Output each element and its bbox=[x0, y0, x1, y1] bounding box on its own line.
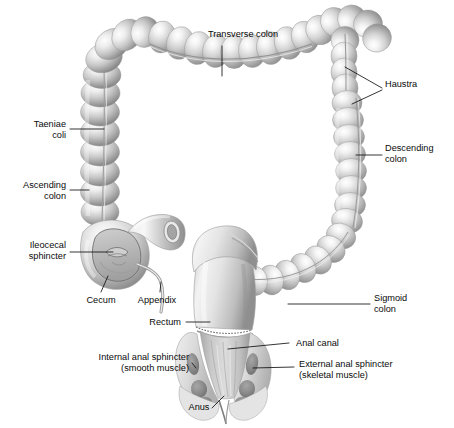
label-ascending-colon[interactable]: Ascending colon bbox=[2, 180, 66, 201]
label-transverse-colon[interactable]: Transverse colon bbox=[183, 29, 303, 40]
label-internal-anal-sphincter[interactable]: Internal anal sphincter (smooth muscle) bbox=[75, 352, 189, 373]
label-sigmoid-colon[interactable]: Sigmoid colon bbox=[374, 293, 452, 314]
ascending-colon bbox=[81, 62, 122, 227]
descending-colon bbox=[330, 91, 367, 236]
label-appendix[interactable]: Appendix bbox=[126, 295, 188, 306]
label-anus[interactable]: Anus bbox=[175, 402, 223, 413]
anatomy-figure: Transverse colon Haustra Taeniae coli De… bbox=[0, 0, 454, 428]
label-rectum[interactable]: Rectum bbox=[131, 317, 181, 328]
label-external-anal-sphincter[interactable]: External anal sphincter (skeletal muscle… bbox=[299, 359, 449, 380]
label-haustra[interactable]: Haustra bbox=[385, 79, 451, 90]
transverse-colon bbox=[146, 18, 323, 69]
rectum bbox=[192, 226, 258, 338]
label-taeniae-coli[interactable]: Taeniae coli bbox=[6, 119, 66, 140]
label-cecum[interactable]: Cecum bbox=[73, 295, 129, 306]
label-ileocecal-sphincter[interactable]: Ileocecal sphincter bbox=[2, 240, 66, 261]
splenic-flexure bbox=[300, 1, 396, 102]
label-descending-colon[interactable]: Descending colon bbox=[385, 143, 453, 164]
label-anal-canal[interactable]: Anal canal bbox=[296, 338, 372, 349]
